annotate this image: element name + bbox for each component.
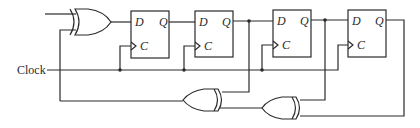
- ff2-c-label: C: [204, 39, 213, 53]
- ff3-q-label: Q: [300, 14, 309, 28]
- ff4-c-label: C: [357, 38, 366, 52]
- ff3-d-label: D: [276, 14, 286, 28]
- junction-dot: [260, 68, 264, 72]
- ff3-clock-wire: [262, 45, 273, 70]
- xor-gate-feedback-right: [262, 97, 300, 119]
- junction-dot: [182, 68, 186, 72]
- ff4-q-label: Q: [375, 14, 384, 28]
- ff2-d-label: D: [198, 15, 208, 29]
- clock-label: Clock: [17, 63, 46, 77]
- ff4-d-label: D: [351, 14, 361, 28]
- junction-dot: [323, 18, 327, 22]
- ff1-clock-wire: [120, 46, 131, 70]
- junction-dot: [118, 68, 122, 72]
- flip-flop-3: D Q C: [273, 10, 311, 57]
- feedback-wire-to-input-xor: [60, 30, 76, 101]
- ff2-clock-wire: [184, 46, 195, 70]
- ff2-q-label: Q: [222, 15, 231, 29]
- ff1-q-label: Q: [159, 15, 168, 29]
- ff3-c-label: C: [282, 38, 291, 52]
- circuit-diagram: D Q C D Q C D Q C D Q C: [0, 0, 420, 128]
- xor-gate-feedback-left: [183, 89, 222, 111]
- ff1-c-label: C: [140, 39, 149, 53]
- flip-flop-2: D Q C: [195, 11, 233, 57]
- ff1-d-label: D: [134, 15, 144, 29]
- circuit-svg: D Q C D Q C D Q C D Q C: [0, 0, 420, 128]
- flip-flop-1: D Q C: [131, 11, 169, 58]
- junction-dot: [247, 19, 251, 23]
- flip-flop-4: D Q C: [348, 10, 386, 57]
- xor-gate-input: [70, 9, 111, 35]
